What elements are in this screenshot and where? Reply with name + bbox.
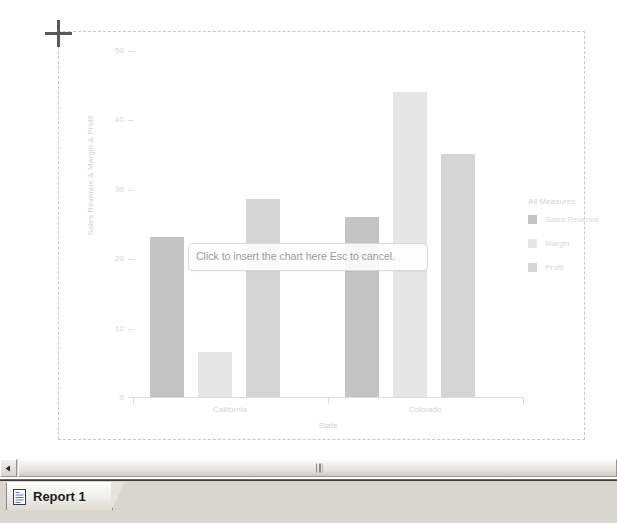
- x-axis-tick-mark: [523, 397, 524, 404]
- y-axis-tick-mark: [128, 259, 134, 260]
- crosshair-vertical-bar: [57, 20, 60, 47]
- chart-legend: All Measures Sales Revenue Margin Profit: [528, 197, 617, 286]
- y-axis-tick-label: 40: [76, 116, 124, 124]
- legend-swatch-icon: [528, 215, 537, 224]
- bar-colorado-profit[interactable]: [441, 154, 475, 397]
- insert-chart-tooltip: Click to insert the chart here Esc to ca…: [188, 243, 428, 271]
- bottom-chrome: Report 1: [0, 455, 617, 522]
- legend-item-label: Profit: [545, 263, 564, 272]
- plot-area: [136, 50, 518, 397]
- bar-chart[interactable]: Sales Revenue & Margin & Profit 50 40 30…: [58, 31, 585, 440]
- y-axis-tick-label: 10: [76, 325, 124, 333]
- report-canvas[interactable]: Sales Revenue & Margin & Profit 50 40 30…: [0, 0, 617, 455]
- y-axis-tick-mark: [128, 120, 134, 121]
- y-axis-tick-mark: [128, 190, 134, 191]
- x-axis-category-label-california: California: [170, 405, 290, 414]
- legend-swatch-icon: [528, 239, 537, 248]
- y-axis-tick-mark: [128, 329, 134, 330]
- y-axis-tick-label: 30: [76, 186, 124, 194]
- x-axis-tick-mark: [133, 397, 134, 404]
- scrollbar-thumb[interactable]: [18, 459, 617, 477]
- legend-item-profit[interactable]: Profit: [528, 262, 617, 273]
- crosshair-cursor-icon: [45, 20, 72, 47]
- horizontal-scrollbar[interactable]: [0, 458, 617, 477]
- report-tab-strip: Report 1: [0, 479, 617, 523]
- x-axis-title: State: [208, 421, 448, 430]
- bar-california-sales-revenue[interactable]: [150, 237, 184, 397]
- y-axis-title: Sales Revenue & Margin & Profit: [86, 86, 95, 266]
- legend-title: All Measures: [528, 197, 617, 206]
- tab-report-1[interactable]: Report 1: [6, 482, 113, 510]
- triangle-left-icon: [5, 465, 12, 472]
- report-document-icon: [13, 489, 26, 505]
- bar-california-margin[interactable]: [198, 352, 232, 397]
- legend-item-sales-revenue[interactable]: Sales Revenue: [528, 214, 617, 225]
- y-axis-tick-label: 0: [76, 394, 124, 402]
- scroll-grip-icon: [313, 464, 322, 473]
- scroll-left-button[interactable]: [0, 459, 17, 477]
- legend-item-margin[interactable]: Margin: [528, 238, 617, 249]
- tab-label: Report 1: [33, 489, 86, 504]
- y-axis-tick-label: 20: [76, 255, 124, 263]
- legend-item-label: Sales Revenue: [545, 215, 599, 224]
- y-axis-tick-mark: [128, 51, 134, 52]
- x-axis-tick-mark: [328, 397, 329, 404]
- x-axis-category-label-colorado: Colorado: [365, 405, 485, 414]
- legend-swatch-icon: [528, 263, 537, 272]
- y-axis-tick-label: 50: [76, 47, 124, 55]
- legend-item-label: Margin: [545, 239, 569, 248]
- bar-california-profit[interactable]: [246, 199, 280, 397]
